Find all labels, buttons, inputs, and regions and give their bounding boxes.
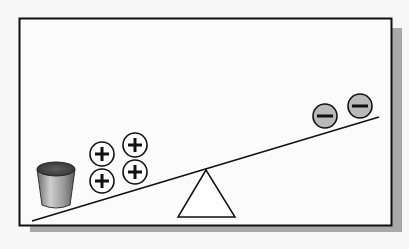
diagram-canvas [0,0,409,249]
positive-charge-icon [90,142,114,166]
negative-charge-icon [313,104,337,128]
negative-charge-icon [348,94,372,118]
positive-charge-icon [123,160,147,184]
seesaw-diagram [0,0,409,249]
bucket-icon [37,162,75,208]
positive-charge-icon [90,169,114,193]
positive-charge-icon [123,133,147,157]
